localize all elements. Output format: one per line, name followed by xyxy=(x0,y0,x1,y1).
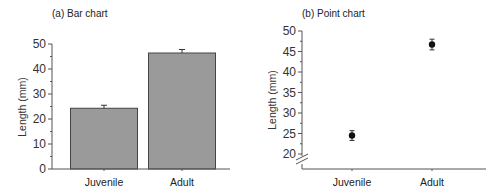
point-chart-title: (b) Point chart xyxy=(302,8,365,19)
y-tick-label: 50 xyxy=(33,37,47,51)
point-chart-panel: (b) Point chart Length (mm) 202530354045… xyxy=(266,8,486,188)
x-category-label: Juvenile xyxy=(333,176,372,188)
y-tick-label: 45 xyxy=(283,45,297,59)
point-juvenile xyxy=(349,132,355,138)
bar-chart-y-axis-label: Length (mm) xyxy=(16,77,28,137)
y-tick-label: 0 xyxy=(39,162,46,176)
y-tick-label: 30 xyxy=(33,87,47,101)
point-chart-y-ticks: 20253035404550 xyxy=(283,24,302,161)
y-tick-label: 35 xyxy=(283,86,297,100)
y-tick-label: 10 xyxy=(33,137,47,151)
bar-chart-x-labels: JuvenileAdult xyxy=(85,176,194,188)
point-chart-x-labels: JuvenileAdult xyxy=(333,176,444,188)
y-tick-label: 30 xyxy=(283,106,297,120)
figure: (a) Bar chart Length (mm) 01020304050 Ju… xyxy=(0,0,497,196)
y-tick-label: 20 xyxy=(283,147,297,161)
bar-chart-y-ticks: 01020304050 xyxy=(33,37,52,176)
bar-chart-title: (a) Bar chart xyxy=(52,8,108,19)
axis-break-icon xyxy=(296,154,308,169)
bar-chart-panel: (a) Bar chart Length (mm) 01020304050 Ju… xyxy=(16,8,230,188)
y-tick-label: 40 xyxy=(283,65,297,79)
y-tick-label: 25 xyxy=(283,127,297,141)
point-adult xyxy=(429,41,435,47)
y-tick-label: 50 xyxy=(283,24,297,38)
bar-juvenile xyxy=(71,108,138,169)
x-category-label: Adult xyxy=(420,176,444,188)
y-tick-label: 40 xyxy=(33,62,47,76)
bar-adult xyxy=(149,53,216,169)
bar-chart-bars xyxy=(71,50,216,172)
point-chart-y-axis-label: Length (mm) xyxy=(266,70,278,130)
x-category-label: Juvenile xyxy=(85,176,124,188)
x-category-label: Adult xyxy=(170,176,194,188)
point-chart-points xyxy=(349,39,435,171)
y-tick-label: 20 xyxy=(33,112,47,126)
